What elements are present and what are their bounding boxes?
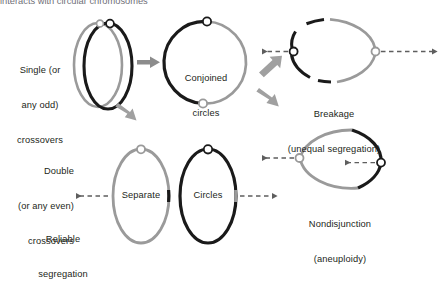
node-marker [97,20,104,27]
label-nondisjunction: Nondisjunction (aneuploidy) [282,196,398,283]
arrow-to-conjoined [137,57,160,68]
arrow-to-breakage [259,56,282,77]
node-marker [204,145,212,153]
icon-interlocked-circles [74,20,132,109]
node-marker [290,48,298,56]
node-marker [203,17,211,25]
node-marker [372,48,380,56]
label-separate: Separate [111,190,171,202]
icon-broken-circle [262,19,432,82]
arrow-to-double-crossovers [115,103,136,121]
arrow-to-nondisjunction [256,88,278,107]
node-marker [106,20,114,28]
label-conjoined-circles: Conjoined circles [170,50,242,143]
label-reliable-segregation: Reliable segregation [20,211,106,283]
label-breakage: Breakage (unequal segregation) [278,86,390,179]
node-marker [137,145,145,153]
label-circles: Circles [180,190,236,202]
